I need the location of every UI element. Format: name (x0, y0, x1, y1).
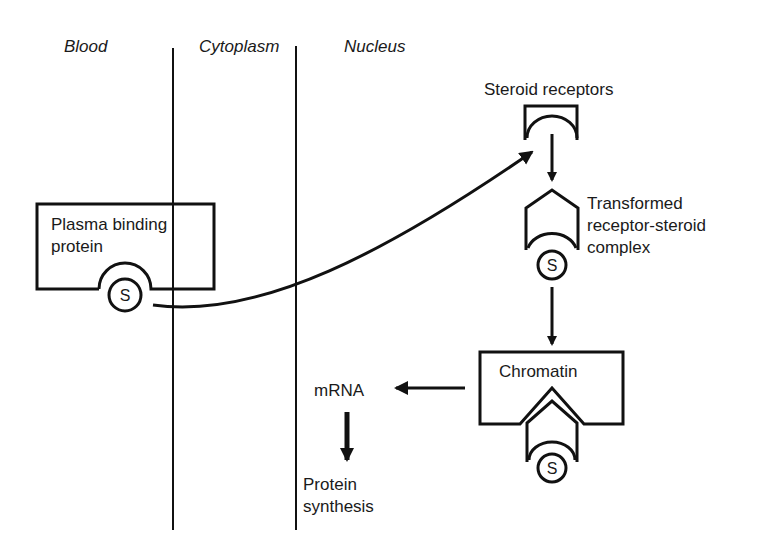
compartment-label-blood: Blood (64, 37, 108, 56)
transformed-complex: S Transformed receptor-steroid complex (526, 190, 706, 279)
compartment-label-cytoplasm: Cytoplasm (199, 37, 279, 56)
transformed-label-3: complex (587, 238, 651, 257)
plasma-binding-protein: Plasma binding protein S (37, 204, 214, 311)
mrna-label: mRNA (314, 381, 365, 400)
steroid-symbol: S (547, 460, 558, 477)
protein-synthesis-label-2: synthesis (303, 497, 374, 516)
plasma-binding-protein-label-2: protein (51, 237, 103, 256)
transformed-label-1: Transformed (587, 194, 683, 213)
compartment-label-nucleus: Nucleus (344, 37, 406, 56)
chromatin-label: Chromatin (499, 362, 577, 381)
protein-synthesis-label-1: Protein (303, 475, 357, 494)
steroid-receptors-label: Steroid receptors (484, 80, 613, 99)
transport-arrow (153, 152, 532, 307)
chromatin: Chromatin S (480, 352, 623, 482)
transformed-label-2: receptor-steroid (587, 216, 706, 235)
steroid-symbol: S (120, 287, 131, 304)
steroid-symbol: S (547, 257, 558, 274)
plasma-binding-protein-label-1: Plasma binding (51, 215, 167, 234)
steroid-action-diagram: Blood Cytoplasm Nucleus Plasma binding p… (0, 0, 771, 548)
